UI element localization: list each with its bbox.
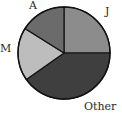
label-other: Other xyxy=(84,101,116,112)
label-j: J xyxy=(105,6,109,17)
label-a: A xyxy=(29,0,37,11)
pie-chart: A J M Other xyxy=(0,0,122,114)
pie-svg xyxy=(0,0,122,114)
label-m: M xyxy=(0,43,11,54)
